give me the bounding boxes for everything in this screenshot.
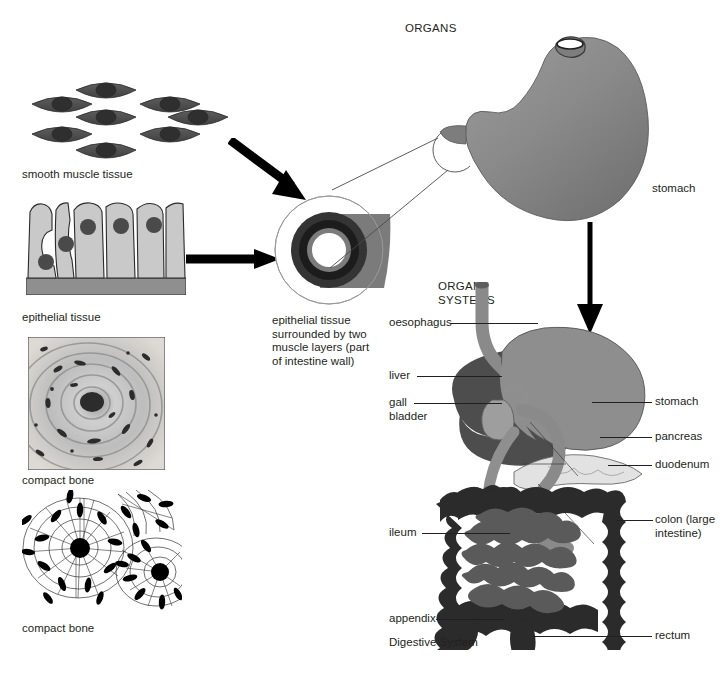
leader-stomach-system	[592, 402, 652, 403]
figure-title: Digestive System	[389, 636, 478, 650]
label-liver: liver	[389, 369, 410, 383]
label-oesophagus: oesophagus	[389, 316, 452, 330]
arrow-epithelial-to-cross-section	[186, 248, 282, 270]
leader-rectum	[533, 636, 652, 637]
leader-gall-bladder	[414, 403, 502, 404]
compact-bone-micrograph-label: compact bone	[22, 474, 94, 488]
digestive-system-illustration	[418, 282, 650, 650]
smooth-muscle-tissue-label: smooth muscle tissue	[22, 168, 133, 182]
figure-canvas: ORGANS ORGAN SYSTEMS	[0, 0, 721, 673]
stomach-organ-illustration	[438, 32, 654, 228]
compact-bone-lacunae-diagram	[22, 490, 182, 612]
leader-liver	[417, 376, 502, 377]
label-duodenum: duodenum	[655, 458, 709, 472]
label-colon: colon (large intestine)	[655, 513, 715, 540]
smooth-muscle-tissue-illustration	[28, 72, 228, 180]
epithelial-tissue-illustration	[26, 200, 186, 295]
label-stomach-system: stomach	[655, 395, 698, 409]
compact-bone-diagram-label: compact bone	[22, 622, 94, 636]
label-pancreas: pancreas	[655, 430, 702, 444]
leader-pancreas	[600, 437, 652, 438]
label-ileum: ileum	[389, 526, 416, 540]
stomach-organ-label: stomach	[652, 182, 695, 196]
label-gall-bladder: gall bladder	[389, 396, 427, 423]
epithelial-tissue-label: epithelial tissue	[22, 311, 101, 325]
leader-appendix	[436, 619, 504, 620]
leader-ileum	[422, 533, 510, 534]
label-appendix: appendix	[389, 612, 436, 626]
leader-duodenum	[608, 465, 652, 466]
compact-bone-micrograph	[28, 337, 165, 470]
cross-section-caption: epithelial tissue surrounded by two musc…	[272, 314, 382, 368]
label-rectum: rectum	[655, 629, 690, 643]
leader-colon	[617, 520, 653, 521]
leader-oesophagus	[450, 323, 538, 324]
